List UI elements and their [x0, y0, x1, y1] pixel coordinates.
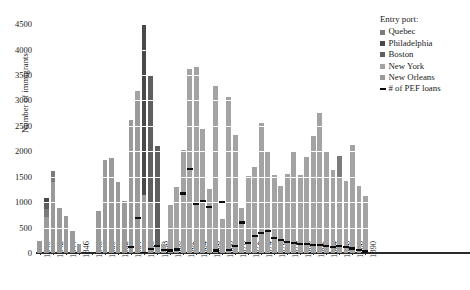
pef-loan-marker: [161, 249, 167, 251]
bar-segment: [168, 205, 173, 253]
bar-column: [44, 198, 49, 253]
bar-column: [142, 24, 147, 253]
bar-column: [70, 231, 75, 253]
bar-column: [337, 156, 342, 253]
bar-segment: [278, 186, 283, 253]
legend-swatch-icon: [380, 64, 385, 69]
gridline: [36, 100, 372, 101]
x-tick-label: 1890: [369, 241, 378, 258]
bar-segment: [363, 196, 368, 253]
legend-item-label: Quebec: [389, 26, 416, 37]
bar-column: [350, 145, 355, 253]
pef-loan-marker: [167, 249, 173, 251]
bar-column: [226, 97, 231, 253]
legend-item-label: Philadelphia: [389, 38, 433, 49]
bar-segment: [311, 136, 316, 253]
immigration-chart-figure: Number of immigrants 0500100015002000250…: [0, 0, 470, 290]
bar-segment: [187, 69, 192, 253]
pef-loan-marker: [213, 249, 219, 251]
bar-segment: [317, 113, 322, 253]
bar-segment: [194, 67, 199, 253]
bar-column: [116, 182, 121, 253]
bar-segment: [109, 158, 114, 253]
bar-segment: [272, 175, 277, 253]
bar-segment: [331, 170, 336, 253]
gridline: [36, 75, 372, 76]
legend-item-new-york: New York: [380, 61, 441, 72]
pef-loan-marker: [349, 247, 355, 249]
legend-item-label: # of PEF loans: [389, 83, 441, 94]
bar-segment: [44, 209, 49, 218]
pef-loan-marker: [154, 245, 160, 247]
bar-segment: [116, 182, 121, 253]
legend-item-boston: Boston: [380, 49, 441, 60]
bar-column: [64, 216, 69, 253]
bar-column: [220, 219, 225, 253]
bar-column: [77, 244, 82, 253]
pef-loan-marker: [252, 235, 258, 237]
pef-loan-marker: [304, 243, 310, 245]
pef-loan-marker: [291, 242, 297, 244]
bar-column: [148, 75, 153, 253]
pef-loan-marker: [356, 249, 362, 251]
bar-segment: [207, 189, 212, 253]
pef-loan-marker: [232, 245, 238, 247]
legend-swatch-icon: [380, 52, 385, 57]
gridline: [36, 202, 372, 203]
pef-loan-marker: [219, 201, 225, 203]
pef-loan-marker: [174, 248, 180, 250]
pef-loan-marker: [206, 206, 212, 208]
legend-swatch-icon: [380, 30, 385, 35]
legend-item-of-pef-loans: # of PEF loans: [380, 83, 441, 94]
bar-segment: [135, 91, 140, 101]
pef-loan-marker: [362, 250, 368, 252]
gridline: [36, 228, 372, 229]
pef-loan-marker: [200, 200, 206, 202]
pef-loan-marker: [284, 241, 290, 243]
bar-segment: [148, 75, 153, 202]
bar-column: [357, 186, 362, 253]
legend-item-philadelphia: Philadelphia: [380, 38, 441, 49]
bar-segment: [239, 208, 244, 253]
bar-column: [272, 175, 277, 253]
bar-column: [109, 158, 114, 253]
gridline: [36, 50, 372, 51]
bar-segment: [129, 120, 134, 253]
x-tick-mark: [92, 252, 93, 255]
bar-segment: [233, 135, 238, 253]
pef-loan-marker: [297, 243, 303, 245]
bar-segment: [226, 97, 231, 253]
bar-column: [298, 175, 303, 253]
bar-column: [174, 187, 179, 253]
legend-swatch-icon: [380, 75, 385, 80]
pef-loan-marker: [141, 252, 147, 253]
pef-loan-marker: [317, 244, 323, 246]
bar-column: [344, 181, 349, 253]
bar-segment: [77, 244, 82, 253]
bar-column: [37, 241, 42, 253]
bar-column: [207, 189, 212, 253]
bar-segment: [44, 217, 49, 253]
bar-segment: [174, 187, 179, 253]
pef-loan-marker: [330, 246, 336, 248]
gridline: [36, 126, 372, 127]
legend-item-label: New York: [389, 61, 425, 72]
pef-loan-marker: [278, 239, 284, 241]
bar-column: [304, 157, 309, 253]
bar-column: [135, 91, 140, 253]
gridline: [36, 151, 372, 152]
gridline: [36, 177, 372, 178]
bar-column: [239, 208, 244, 253]
chart-legend: Entry port: QuebecPhiladelphiaBostonNew …: [380, 14, 441, 95]
bar-column: [233, 135, 238, 253]
bar-column: [168, 205, 173, 253]
bar-column: [252, 167, 257, 253]
pef-loan-marker: [148, 248, 154, 250]
bar-column: [200, 129, 205, 253]
bar-segment: [252, 167, 257, 253]
bar-segment: [155, 146, 160, 246]
pef-loan-marker: [265, 230, 271, 232]
bar-segment: [142, 195, 147, 254]
pef-loan-marker: [180, 192, 186, 194]
bar-segment: [200, 129, 205, 253]
